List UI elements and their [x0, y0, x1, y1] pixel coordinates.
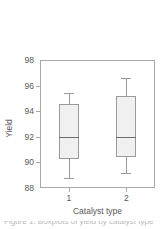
box [59, 104, 79, 159]
median-line [59, 137, 79, 138]
figure-caption: Figure 1. Boxplots of yield by catalyst … [0, 221, 166, 229]
upper-whisker [126, 78, 127, 96]
box-series [0, 0, 166, 229]
upper-whisker-cap [121, 78, 131, 79]
upper-whisker-cap [64, 93, 74, 94]
lower-whisker [69, 159, 70, 178]
figure-caption-text: Figure 1. Boxplots of yield by catalyst … [0, 221, 166, 226]
lower-whisker-cap [64, 178, 74, 179]
lower-whisker-cap [121, 173, 131, 174]
lower-whisker [126, 157, 127, 172]
boxplot-figure: Yield 889092949698 12 Catalyst type Figu… [0, 0, 166, 229]
median-line [116, 137, 136, 138]
box [116, 96, 136, 157]
upper-whisker [69, 93, 70, 103]
